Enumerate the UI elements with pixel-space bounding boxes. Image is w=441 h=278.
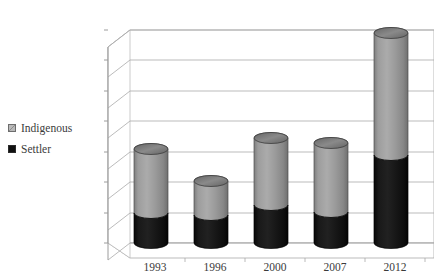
bar-segment-settler [254, 205, 288, 249]
legend-swatch-indigenous-icon [8, 124, 16, 132]
legend-swatch-settler-icon [8, 145, 16, 153]
x-axis-labels: 1993 1996 2000 2007 2012 [144, 261, 407, 273]
x-tick-label: 1993 [144, 261, 167, 273]
bar-group-1996 [194, 176, 228, 249]
y-tick-marks [104, 30, 108, 243]
cylinder-top-cap [134, 144, 168, 155]
legend-item-indigenous: Indigenous [8, 117, 104, 138]
cylinder-top-cap [254, 133, 288, 144]
x-tick-label: 1996 [204, 261, 227, 273]
legend-item-settler: Settler [8, 138, 104, 159]
bar-segment-settler [314, 212, 348, 249]
plot-area: 35 30 25 20 15 10 5 0 [104, 6, 434, 274]
bar-segment-indigenous [374, 28, 408, 161]
cylinder-top-cap [374, 28, 408, 39]
legend-label-settler: Settler [21, 143, 51, 155]
bar-segment-indigenous [254, 133, 288, 211]
chart-figure: Indigenous Settler [0, 0, 441, 278]
bar-segment-indigenous [314, 138, 348, 218]
bar-segment-settler [374, 155, 408, 249]
cylinder-top-cap [314, 138, 348, 149]
bar-segment-indigenous [134, 144, 168, 219]
bar-group-2007 [314, 138, 348, 249]
x-tick-label: 2000 [264, 261, 287, 273]
chart-svg: 35 30 25 20 15 10 5 0 [104, 6, 434, 274]
chart-legend: Indigenous Settler [8, 117, 104, 159]
legend-label-indigenous: Indigenous [21, 122, 72, 134]
bar-segment-indigenous [194, 176, 228, 221]
cylinder-top-cap [194, 176, 228, 187]
chart-side-wall [108, 30, 130, 258]
x-tick-label: 2007 [324, 261, 347, 273]
bar-segment-settler [134, 213, 168, 249]
x-tick-label: 2012 [384, 261, 407, 273]
bar-group-2012 [374, 28, 408, 249]
bar-group-2000 [254, 133, 288, 249]
bar-group-1993 [134, 144, 168, 249]
